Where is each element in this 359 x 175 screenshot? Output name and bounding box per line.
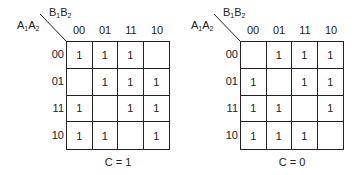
column-label: 01 [266, 24, 292, 36]
row-label: 11 [46, 102, 64, 114]
kmap-cell: 1 [318, 96, 344, 123]
kmap-cell [267, 69, 293, 96]
kmap-cell: 1 [144, 69, 170, 96]
row-label: 11 [220, 102, 238, 114]
map-caption: C = 0 [240, 156, 344, 168]
row-label: 10 [46, 129, 64, 141]
kmap-cell: 1 [267, 42, 293, 69]
kmap-cell: 1 [267, 96, 293, 123]
kmap-cell [144, 42, 170, 69]
column-label: 00 [66, 24, 92, 36]
kmap-cell [318, 122, 344, 149]
karnaugh-map-c1: B1B2 A1A2 00 01 11 10 00 01 11 10 1 1 1 … [0, 0, 180, 175]
row-variable-label: A1A2 [17, 19, 40, 32]
kmap-cell: 1 [292, 42, 318, 69]
column-label: 11 [118, 24, 144, 36]
kmap-grid: 1 1 1 1 1 1 1 1 1 1 1 1 [66, 41, 170, 150]
row-label: 00 [220, 48, 238, 60]
row-label: 10 [220, 129, 238, 141]
kmap-cell: 1 [318, 42, 344, 69]
row-label: 01 [220, 75, 238, 87]
row-label: 00 [46, 48, 64, 60]
kmap-cell: 1 [93, 122, 119, 149]
kmap-cell: 1 [241, 122, 267, 149]
column-label: 01 [92, 24, 118, 36]
kmap-cell: 1 [292, 69, 318, 96]
karnaugh-map-c0: B1B2 A1A2 00 01 11 10 00 01 11 10 1 1 1 … [174, 0, 354, 175]
map-caption: C = 1 [66, 156, 170, 168]
kmap-cell [241, 42, 267, 69]
kmap-cell: 1 [318, 69, 344, 96]
kmap-cell [292, 96, 318, 123]
kmap-cell [93, 96, 119, 123]
kmap-cell: 1 [241, 69, 267, 96]
column-label: 00 [240, 24, 266, 36]
kmap-cell: 1 [118, 96, 144, 123]
diagonal-divider [40, 14, 68, 42]
row-variable-label: A1A2 [191, 19, 214, 32]
kmap-cell [118, 122, 144, 149]
kmap-cell: 1 [144, 96, 170, 123]
kmap-cell: 1 [267, 122, 293, 149]
column-label: 10 [318, 24, 344, 36]
kmap-cell: 1 [241, 96, 267, 123]
kmap-cell [67, 69, 93, 96]
diagonal-divider [214, 14, 242, 42]
kmap-cell: 1 [93, 42, 119, 69]
kmap-cell: 1 [67, 122, 93, 149]
row-label: 01 [46, 75, 64, 87]
kmap-cell: 1 [292, 122, 318, 149]
kmap-cell: 1 [67, 96, 93, 123]
column-label: 10 [144, 24, 170, 36]
kmap-cell: 1 [93, 69, 119, 96]
kmap-cell: 1 [144, 122, 170, 149]
kmap-cell: 1 [118, 42, 144, 69]
kmap-cell: 1 [118, 69, 144, 96]
column-label: 11 [292, 24, 318, 36]
kmap-cell: 1 [67, 42, 93, 69]
kmap-grid: 1 1 1 1 1 1 1 1 1 1 1 1 [240, 41, 344, 150]
